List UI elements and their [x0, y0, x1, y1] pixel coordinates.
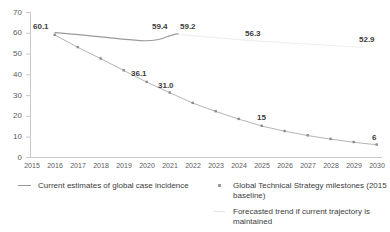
legend-item-current-estimates[interactable]: Current estimates of global case inciden…	[18, 181, 208, 191]
legend-label-current-estimates: Current estimates of global case inciden…	[38, 181, 208, 191]
legend-label-gts-milestones: Global Technical Strategy milestones (20…	[233, 181, 388, 201]
data-label-6: 6	[372, 134, 376, 142]
data-label-52-9: 52.9	[359, 36, 375, 44]
x-tick-2020: 2020	[135, 162, 159, 170]
x-tick-2029: 2029	[342, 162, 366, 170]
gts-milestone-markers	[54, 34, 378, 146]
data-label-60-1: 60.1	[33, 23, 49, 31]
x-tick-2017: 2017	[66, 162, 90, 170]
y-tick-70: 70	[2, 9, 22, 17]
x-tick-2030: 2030	[365, 162, 389, 170]
x-tick-2028: 2028	[319, 162, 343, 170]
y-tick-20: 20	[2, 112, 22, 120]
y-tick-40: 40	[2, 71, 22, 79]
series-gts-milestones	[55, 35, 377, 145]
x-tick-2026: 2026	[273, 162, 297, 170]
y-tick-50: 50	[2, 50, 22, 58]
data-label-59-2: 59.2	[180, 23, 196, 31]
data-label-59-4: 59.4	[152, 23, 168, 31]
y-tick-10: 10	[2, 133, 22, 141]
legend-column-left: Current estimates of global case inciden…	[18, 181, 208, 195]
data-label-36-1: 36.1	[131, 70, 147, 78]
x-tick-2022: 2022	[181, 162, 205, 170]
dot-marker-icon	[218, 184, 221, 187]
y-tick-marks	[26, 13, 31, 158]
x-tick-2021: 2021	[158, 162, 182, 170]
y-tick-60: 60	[2, 29, 22, 37]
legend-item-gts-milestones[interactable]: Global Technical Strategy milestones (20…	[213, 181, 388, 201]
legend-column-right: Global Technical Strategy milestones (20…	[213, 181, 388, 231]
data-label-56-3: 56.3	[245, 30, 261, 38]
data-label-31-0: 31.0	[158, 82, 174, 90]
incidence-line-chart: 70 60 50 40 30 20 10 0 2015 2016 2017 20…	[0, 0, 390, 232]
series-forecast-trend	[178, 34, 363, 47]
x-tick-2019: 2019	[112, 162, 136, 170]
faint-line-marker-icon	[214, 211, 225, 212]
solid-line-marker-icon	[18, 185, 31, 186]
x-tick-2023: 2023	[204, 162, 228, 170]
chart-legend: Current estimates of global case inciden…	[0, 178, 390, 232]
x-tick-2016: 2016	[43, 162, 67, 170]
x-tick-2027: 2027	[296, 162, 320, 170]
x-tick-2018: 2018	[89, 162, 113, 170]
legend-label-forecasted-trend: Forecasted trend if current trajectory i…	[233, 207, 388, 227]
y-tick-30: 30	[2, 92, 22, 100]
x-tick-2024: 2024	[227, 162, 251, 170]
data-label-15: 15	[257, 114, 266, 122]
x-tick-2025: 2025	[250, 162, 274, 170]
series-current-estimates	[55, 33, 178, 41]
legend-item-forecasted-trend[interactable]: Forecasted trend if current trajectory i…	[213, 207, 388, 227]
y-tick-0: 0	[2, 154, 22, 162]
x-tick-2015: 2015	[20, 162, 44, 170]
